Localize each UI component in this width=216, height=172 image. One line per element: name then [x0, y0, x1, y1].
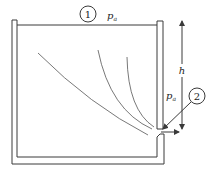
tank [12, 20, 164, 164]
point-2-leader [163, 102, 191, 129]
point-1-label: 1 [85, 9, 91, 20]
height-label: h [179, 65, 185, 76]
point-2-pressure: pa [166, 90, 176, 102]
orifice-lower-lip [157, 134, 164, 137]
point-2-label: 2 [194, 91, 200, 102]
right-wall-upper [157, 21, 163, 129]
streamline-3 [127, 57, 154, 127]
tank-inner-wall [17, 25, 157, 157]
left-wall-cap [12, 20, 17, 25]
point-2-marker: 2 [189, 88, 205, 104]
point-1-pressure: pa [107, 10, 117, 22]
streamlines [38, 50, 154, 135]
streamline-2 [98, 50, 152, 129]
tank-orifice-diagram: 1 pa h pa 2 [0, 0, 216, 172]
point-1-marker: 1 [80, 6, 96, 22]
tank-outer-wall [12, 20, 164, 164]
